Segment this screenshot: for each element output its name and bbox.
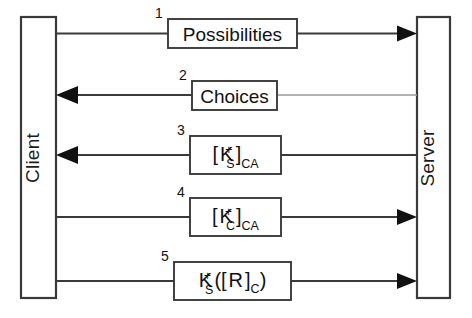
message-5-subscript: S [205,283,213,297]
message-4: [K+C]CA 4 [56,184,417,236]
message-5-superscript: + [204,269,211,283]
message-3-number: 3 [177,122,185,138]
message-4-signer: CA [242,219,260,233]
message-3-open-bracket: [ [212,143,218,165]
message-2: Choices 2 [56,67,417,110]
diagram-canvas: Client Server Possibilities 1 Choices 2 [0,0,472,318]
message-3: [K+S]CA 3 [56,122,417,174]
message-4-open-bracket: [ [212,205,218,227]
message-4-number: 4 [177,184,185,200]
message-5-number: 5 [161,248,169,264]
message-5: K+S([R]C) 5 [56,248,417,300]
server-label: Server [417,129,438,187]
message-2-number: 2 [179,67,187,83]
message-5-arrowhead [397,273,417,289]
sequence-diagram: Client Server Possibilities 1 Choices 2 [0,0,472,318]
message-4-subscript: C [226,219,235,233]
message-5-payload-subscript: C [251,282,260,296]
message-3-signer: CA [241,157,259,171]
message-1-number: 1 [155,5,163,21]
message-3-subscript: S [226,157,234,171]
message-3-arrowhead [56,146,78,164]
client-lifeline: Client [21,17,56,298]
server-lifeline: Server [417,17,451,298]
message-1: Possibilities 1 [56,5,417,48]
message-4-arrowhead [397,209,417,225]
message-2-label: Choices [200,86,269,107]
message-4-superscript: + [225,205,232,219]
message-1-arrowhead [397,26,417,42]
client-label: Client [22,133,43,183]
message-2-arrowhead [56,86,78,104]
message-1-label: Possibilities [183,24,282,45]
message-3-superscript: + [225,143,232,157]
